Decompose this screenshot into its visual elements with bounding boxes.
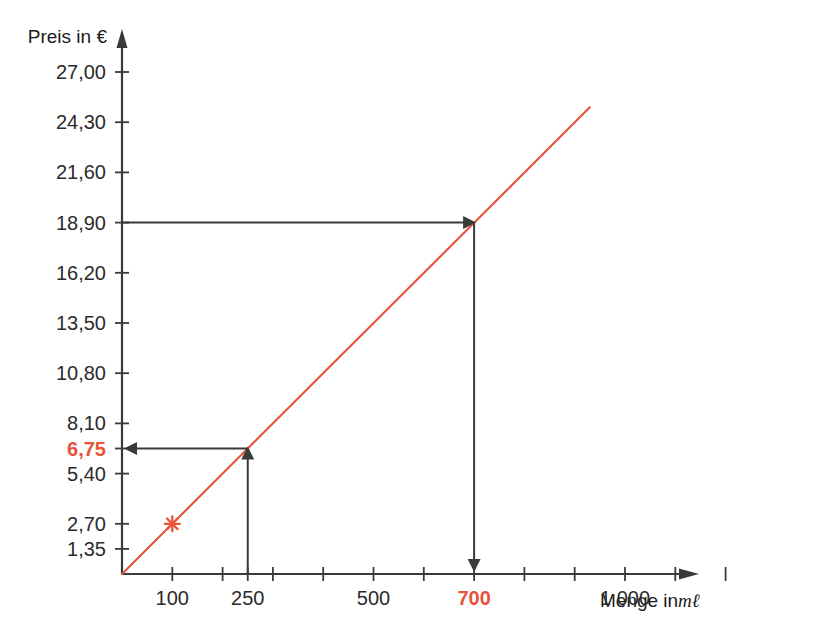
y-tick-label: 2,70 xyxy=(67,513,106,535)
x-axis-arrowhead-icon xyxy=(679,569,699,580)
y-axis-ticks: 1,352,705,406,758,1010,8013,5016,2018,90… xyxy=(56,61,129,560)
axes-layer xyxy=(117,29,700,580)
data-series-layer xyxy=(122,107,590,574)
price-quantity-line-chart: Preis in € Menge in mℓ 1,352,705,406,758… xyxy=(0,0,818,630)
y-axis-arrowhead-icon xyxy=(117,29,128,48)
y-tick-label: 13,50 xyxy=(56,312,106,334)
y-tick-label: 27,00 xyxy=(56,61,106,83)
y-axis-title: Preis in € xyxy=(28,26,108,47)
y-tick-label: 8,10 xyxy=(67,412,106,434)
annotation-700-down-arrowhead-icon xyxy=(468,559,481,572)
x-axis-unit-label: mℓ xyxy=(678,590,700,611)
y-tick-label-highlight: 6,75 xyxy=(67,438,106,460)
annotation-675-left-arrowhead-icon xyxy=(124,442,137,455)
y-tick-label: 18,90 xyxy=(56,212,106,234)
markers-layer xyxy=(165,516,180,531)
y-tick-label: 1,35 xyxy=(67,538,106,560)
chart-container: Preis in € Menge in mℓ 1,352,705,406,758… xyxy=(0,0,818,630)
y-tick-label: 16,20 xyxy=(56,262,106,284)
y-tick-label: 21,60 xyxy=(56,161,106,183)
x-tick-label: 1 000 xyxy=(600,587,650,609)
y-tick-label: 24,30 xyxy=(56,111,106,133)
x-tick-label: 500 xyxy=(357,587,390,609)
x-tick-label: 250 xyxy=(231,587,264,609)
x-tick-label-highlight: 700 xyxy=(457,587,490,609)
star-marker-icon xyxy=(165,516,180,531)
y-tick-label: 10,80 xyxy=(56,362,106,384)
y-tick-label: 5,40 xyxy=(67,463,106,485)
x-tick-label: 100 xyxy=(156,587,189,609)
price-line xyxy=(122,107,590,574)
